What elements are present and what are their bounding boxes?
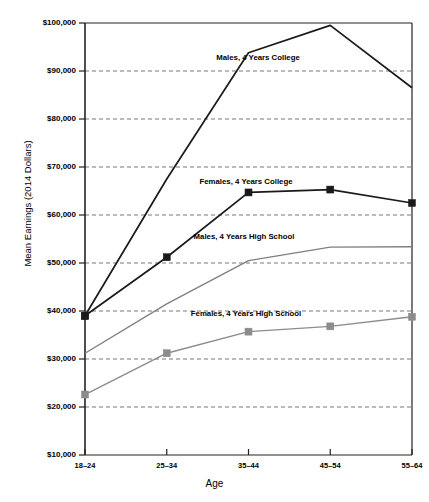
series-label-3: Females, 4 Years High School bbox=[191, 309, 301, 318]
x-axis-tick-label: 45–54 bbox=[300, 461, 360, 470]
y-axis-tick-label: $70,000 bbox=[12, 162, 76, 171]
y-axis-tick-label: $100,000 bbox=[12, 18, 76, 27]
earnings-line-chart: Mean Earnings (2014 Dollars) Age $100,00… bbox=[0, 0, 429, 502]
series-label-0: Males, 4 Years College bbox=[216, 53, 300, 62]
series-label-1: Females, 4 Years College bbox=[199, 177, 292, 186]
y-axis-tick-label: $60,000 bbox=[12, 210, 76, 219]
x-axis-tick-label: 35–44 bbox=[219, 461, 279, 470]
y-axis-tick-label: $20,000 bbox=[12, 402, 76, 411]
y-axis-tick-label: $80,000 bbox=[12, 114, 76, 123]
y-axis-title: Mean Earnings (2014 Dollars) bbox=[22, 129, 33, 279]
x-axis-tick-label: 18–24 bbox=[55, 461, 115, 470]
y-axis-tick-label: $10,000 bbox=[12, 450, 76, 459]
y-axis-tick-label: $40,000 bbox=[12, 306, 76, 315]
chart-plot-area bbox=[0, 0, 429, 502]
series-label-2: Males, 4 Years High School bbox=[194, 232, 295, 241]
x-axis-tick-label: 25–34 bbox=[137, 461, 197, 470]
x-axis-title: Age bbox=[0, 478, 429, 489]
y-axis-tick-label: $90,000 bbox=[12, 66, 76, 75]
data-series bbox=[82, 25, 416, 398]
x-axis-tick-label: 55–64 bbox=[382, 461, 429, 470]
y-axis-tick-label: $50,000 bbox=[12, 258, 76, 267]
y-axis-tick-label: $30,000 bbox=[12, 354, 76, 363]
